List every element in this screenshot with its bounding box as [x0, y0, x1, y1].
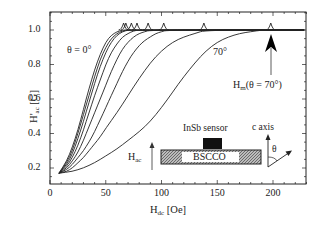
y-tick-label: 1.0	[28, 23, 41, 34]
peak-marker	[159, 23, 169, 30]
y-tick-label: 0.8	[28, 58, 41, 69]
x-axis-label-unit: [Oe]	[164, 204, 186, 215]
peak-marker	[199, 23, 209, 30]
x-tick-label: 0	[40, 187, 60, 198]
sensor-block	[203, 138, 222, 149]
peak-marker	[126, 23, 136, 30]
inset-hac-label: Hac	[128, 151, 141, 164]
hac-sub: ac	[135, 156, 141, 164]
peak-marker	[132, 23, 142, 30]
x-tick-label: 50	[96, 187, 116, 198]
annotation-theta-0: θ = 0°	[67, 44, 91, 55]
annotation-theta-70: 70°	[213, 46, 227, 57]
inset-sample-label: BSCCO	[193, 151, 226, 162]
inset-theta-label: θ	[272, 144, 277, 154]
y-axis-label-sub: ac	[33, 107, 41, 113]
x-tick-label: 100	[152, 187, 172, 198]
x-axis-label-main: H	[150, 204, 158, 215]
peak-marker	[266, 23, 276, 30]
x-axis-label: Hdc [Oe]	[150, 204, 186, 217]
x-tick-label: 150	[207, 187, 227, 198]
y-axis-label-unit: [G]	[28, 90, 39, 107]
y-tick-label: 0.2	[28, 161, 41, 172]
inset-caxis-label: c axis	[252, 122, 274, 132]
field-direction-arrow	[268, 152, 290, 167]
peak-marker	[143, 23, 153, 30]
x-tick-label: 200	[263, 187, 283, 198]
theta-arc	[268, 157, 277, 161]
inset-sensor-label: InSb sensor	[183, 123, 228, 133]
y-axis-label-main: H'	[28, 113, 39, 122]
annotation-hm: Hm(θ = 70°)	[233, 79, 282, 92]
hm-rest: (θ = 70°)	[246, 79, 282, 90]
hm-arrow	[265, 34, 277, 75]
y-axis-label: H'ac [G]	[28, 77, 41, 137]
